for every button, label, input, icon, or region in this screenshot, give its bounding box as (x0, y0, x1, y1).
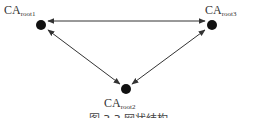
label-main: CA (4, 3, 21, 17)
label-ca-root2: CAroot2 (104, 97, 135, 111)
node-root2 (121, 84, 131, 94)
label-ca-root1: CAroot1 (4, 4, 35, 18)
label-sub: root1 (21, 10, 36, 18)
edge-root3-root2 (132, 30, 205, 84)
label-ca-root3: CAroot3 (205, 4, 236, 18)
node-root1 (36, 20, 46, 30)
edge-root1-root2 (48, 30, 120, 84)
label-main: CA (104, 96, 121, 110)
figure-caption: 图 3.3 网状结构 (0, 110, 257, 118)
label-sub: root3 (222, 10, 237, 18)
ca-mesh-diagram: CAroot1 CAroot3 CAroot2 图 3.3 网状结构 (0, 0, 257, 118)
node-root3 (207, 20, 217, 30)
label-main: CA (205, 3, 222, 17)
